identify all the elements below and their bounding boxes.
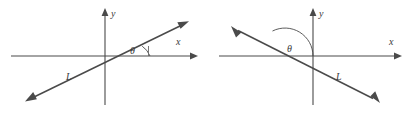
angle-label-left: θ xyxy=(130,45,135,56)
x-axis-label-right: x xyxy=(388,36,394,47)
figure-canvas: x y L θ x y L θ xyxy=(0,0,416,114)
arrow-head-icon-L-right-lower xyxy=(370,91,380,103)
angle-arc-icon-right xyxy=(273,28,314,56)
y-axis-label-right: y xyxy=(318,8,324,19)
angle-label-right: θ xyxy=(287,43,292,54)
line-L-right xyxy=(238,31,373,99)
arrow-up-icon-y-left xyxy=(102,8,109,16)
left-panel: x y L θ xyxy=(11,8,198,105)
arrow-head-icon-L-left-upper xyxy=(177,21,189,29)
line-label-right: L xyxy=(335,71,342,82)
y-axis-label-left: y xyxy=(110,8,116,19)
arrow-head-icon-L-right-upper xyxy=(231,26,241,38)
arrow-right-icon-x-left xyxy=(190,52,198,59)
arrow-head-icon-L-left-lower xyxy=(25,92,37,101)
line-L-left xyxy=(33,26,181,98)
arrow-right-icon-x-right xyxy=(394,52,402,59)
x-axis-label-left: x xyxy=(175,36,181,47)
arrow-up-icon-y-right xyxy=(310,8,317,16)
line-label-left: L xyxy=(65,71,72,82)
right-panel: x y L θ xyxy=(219,8,402,105)
geometry-figure: x y L θ x y L θ xyxy=(0,0,416,114)
